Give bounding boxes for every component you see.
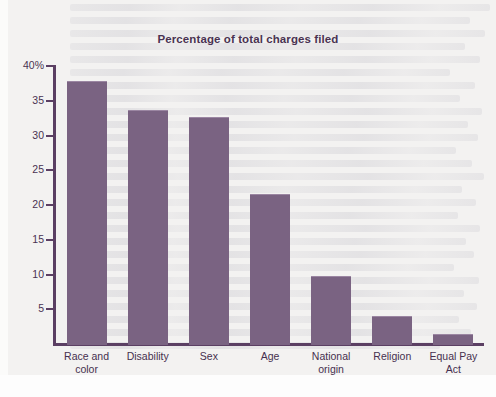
- x-axis-label-line: origin: [301, 363, 362, 376]
- x-axis-label-line: National: [301, 350, 362, 363]
- x-axis-label: Age: [239, 350, 300, 363]
- x-axis-label: Equal PayAct: [423, 350, 484, 376]
- x-axis-label: Disability: [117, 350, 178, 363]
- x-axis-label-line: Act: [423, 363, 484, 376]
- x-axis-label-line: Sex: [178, 350, 239, 363]
- x-axis-label-line: Age: [239, 350, 300, 363]
- x-axis-label-line: Equal Pay: [423, 350, 484, 363]
- x-axis-category-labels: Race andcolorDisabilitySexAgeNationalori…: [0, 0, 496, 397]
- chart-page: Percentage of total charges filed 510152…: [0, 0, 496, 397]
- x-axis-label-line: color: [56, 363, 117, 376]
- x-axis-label-line: Religion: [362, 350, 423, 363]
- x-axis-label: Race andcolor: [56, 350, 117, 376]
- x-axis-label-line: Disability: [117, 350, 178, 363]
- x-axis-label: Nationalorigin: [301, 350, 362, 376]
- x-axis-label: Sex: [178, 350, 239, 363]
- x-axis-label-line: Race and: [56, 350, 117, 363]
- x-axis-label: Religion: [362, 350, 423, 363]
